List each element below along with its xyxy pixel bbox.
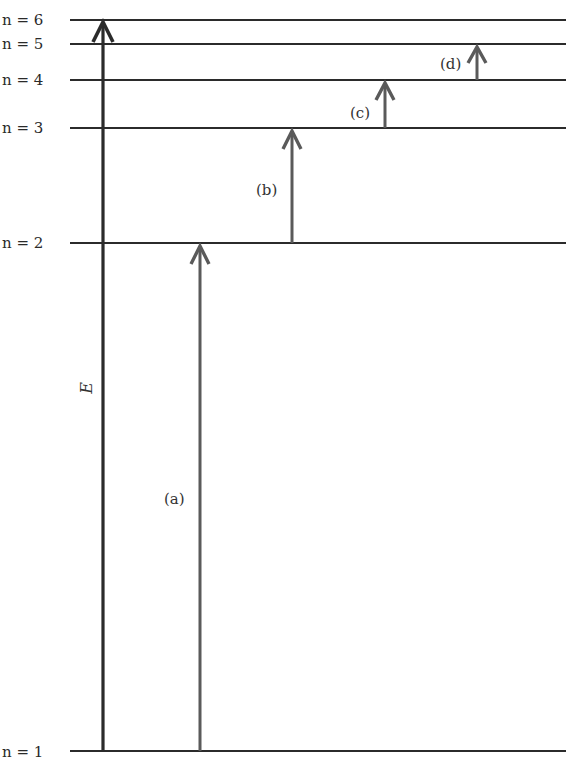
level-label-n4: n = 4 bbox=[2, 71, 43, 89]
level-label-n1: n = 1 bbox=[2, 743, 43, 760]
transition-b bbox=[283, 131, 301, 243]
transition-label-c: (c) bbox=[350, 104, 370, 122]
level-label-n5: n = 5 bbox=[2, 35, 43, 53]
transition-label-d: (d) bbox=[440, 55, 461, 73]
energy-axis-arrow bbox=[93, 22, 113, 751]
level-labels: n = 6 n = 5 n = 4 n = 3 n = 2 n = 1 bbox=[2, 11, 43, 760]
energy-levels bbox=[70, 20, 566, 751]
transition-label-a: (a) bbox=[164, 490, 185, 508]
transition-a bbox=[191, 246, 209, 751]
level-label-n3: n = 3 bbox=[2, 119, 43, 137]
level-label-n2: n = 2 bbox=[2, 234, 43, 252]
transition-d bbox=[468, 47, 486, 80]
transition-label-b: (b) bbox=[256, 181, 277, 199]
energy-level-diagram: n = 6 n = 5 n = 4 n = 3 n = 2 n = 1 E (a… bbox=[0, 0, 571, 760]
energy-axis-label: E bbox=[77, 382, 96, 395]
level-label-n6: n = 6 bbox=[2, 11, 43, 29]
transition-c bbox=[376, 83, 394, 128]
